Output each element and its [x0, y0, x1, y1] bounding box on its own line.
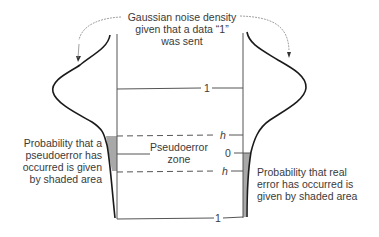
zero-label: 0 [221, 147, 235, 159]
top-one-line-left [117, 88, 201, 89]
left-annotation-line4: by shaded area [0, 173, 102, 185]
gaussian-density-label-line1: Gaussian noise density [120, 11, 244, 23]
left-gaussian-curve [53, 35, 115, 218]
bottom-one-line-right [223, 217, 243, 218]
upper-h-dashed-line [117, 135, 216, 136]
right-arrowhead [287, 52, 291, 58]
bottom-one-label: 1 [213, 212, 223, 224]
right-annotation-line2: error has occurred is [257, 178, 379, 190]
lower-h-dashed-line [117, 171, 216, 172]
gaussian-density-label-line3: was sent [120, 35, 244, 47]
left-annotation-line3: occurred is given [0, 161, 102, 173]
left-annotation-line2: pseudoerror has [0, 149, 102, 161]
pseudoerror-zone-label-line2: zone [148, 153, 210, 165]
left-annotation-line1: Probability that a [0, 137, 102, 149]
left-arrowhead [76, 56, 81, 62]
upper-h-label: h [217, 129, 229, 141]
right-annotation-line1: Probability that real [257, 166, 379, 178]
right-annotation-line3: given by shaded area [257, 190, 379, 202]
top-one-label: 1 [201, 82, 213, 94]
lower-h-label: h [219, 165, 231, 177]
left-arrow-curve [79, 17, 121, 40]
gaussian-density-label-line2: given that a data “1” [120, 23, 244, 35]
bottom-one-line-left [117, 218, 214, 219]
pseudoerror-zone-label-line1: Pseudoerror [148, 141, 210, 153]
